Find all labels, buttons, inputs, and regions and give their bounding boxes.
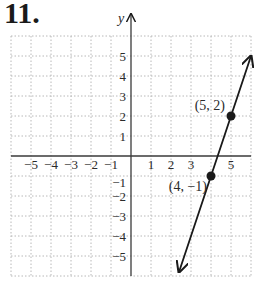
data-point bbox=[227, 112, 236, 121]
x-tick-label: −3 bbox=[64, 157, 78, 172]
coordinate-plane: y−5−4−3−2−1123554321−1−2−3−4−5(5, 2)(4, … bbox=[0, 0, 262, 287]
y-axis-label: y bbox=[116, 11, 125, 26]
y-tick-label: 3 bbox=[120, 89, 127, 104]
point-label: (5, 2) bbox=[195, 98, 226, 114]
x-tick-label: 5 bbox=[228, 157, 235, 172]
x-tick-label: 2 bbox=[168, 157, 175, 172]
y-tick-label: 1 bbox=[120, 129, 127, 144]
x-tick-label: 1 bbox=[148, 157, 155, 172]
y-tick-label: −2 bbox=[112, 189, 126, 204]
y-tick-label: −5 bbox=[112, 249, 126, 264]
y-tick-label: 4 bbox=[120, 69, 127, 84]
y-tick-label: −4 bbox=[112, 229, 126, 244]
y-tick-label: −3 bbox=[112, 209, 126, 224]
y-tick-label: −1 bbox=[112, 175, 126, 190]
x-tick-label: 3 bbox=[188, 157, 195, 172]
x-tick-label: −1 bbox=[104, 157, 118, 172]
y-tick-label: 5 bbox=[120, 49, 127, 64]
y-tick-label: 2 bbox=[120, 109, 127, 124]
x-tick-label: −2 bbox=[84, 157, 98, 172]
data-point bbox=[207, 172, 216, 181]
x-tick-label: −4 bbox=[44, 157, 58, 172]
x-tick-label: −5 bbox=[24, 157, 38, 172]
point-label: (4, −1) bbox=[169, 179, 208, 195]
